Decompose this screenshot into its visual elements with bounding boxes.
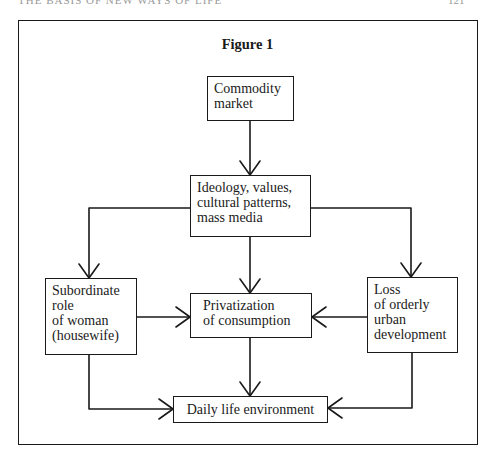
node-ideology: Ideology, values, cultural patterns, mas…	[190, 175, 311, 237]
node-commodity-market: Commodity market	[207, 76, 294, 121]
node-privatization: Privatization of consumption	[190, 293, 312, 338]
node-daily-life: Daily life environment	[173, 396, 328, 423]
edge-ideology-loss	[310, 208, 411, 277]
node-subordinate-role: Subordinate role of woman (housewife)	[45, 278, 137, 355]
node-loss-urban: Loss of orderly urban development	[367, 277, 458, 353]
edge-ideology-subordinate	[89, 208, 190, 278]
